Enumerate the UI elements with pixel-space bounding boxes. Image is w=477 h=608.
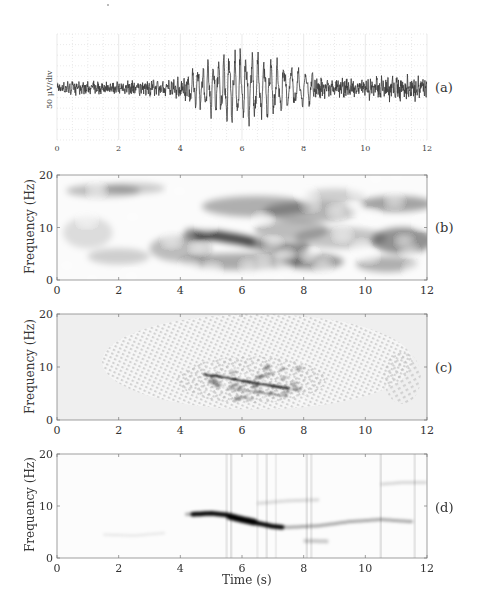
x-tick-label: 2 (115, 562, 122, 575)
x-tick-label: 2 (115, 284, 122, 297)
y-tick-label: 10 (39, 361, 53, 374)
x-tick-label: 0 (54, 284, 61, 297)
x-tick-label: 6 (239, 424, 246, 437)
panel-b-ylabel: Frequency (Hz) (23, 179, 37, 274)
x-tick-label: 6 (239, 284, 246, 297)
panel-a-ylabel: 50 μV/div (45, 70, 54, 109)
x-tick-label: 6 (239, 144, 244, 153)
y-tick-label: 20 (39, 308, 53, 321)
x-tick-label: 12 (420, 424, 434, 437)
figure: 50 μV/div 024681012 (a) 02468101201020 F… (0, 0, 477, 608)
x-tick-label: 12 (420, 284, 434, 297)
panel-c: 02468101201020 Frequency (Hz) (c) (23, 308, 452, 437)
panel-a-label: (a) (435, 80, 453, 95)
x-tick-label: 4 (177, 284, 184, 297)
panel-c-ylabel: Frequency (Hz) (23, 319, 37, 414)
x-tick-label: 12 (420, 562, 434, 575)
x-tick-label: 0 (54, 424, 61, 437)
x-tick-label: 12 (422, 144, 432, 153)
panel-b: 02468101201020 Frequency (Hz) (b) (23, 169, 453, 297)
stray-mark (107, 4, 109, 6)
x-tick-label: 10 (358, 562, 372, 575)
panel-d-ylabel: Frequency (Hz) (23, 457, 37, 552)
panel-d: 02468101201020 Frequency (Hz) Time (s) (… (23, 448, 453, 587)
x-tick-label: 10 (360, 144, 370, 153)
y-tick-label: 0 (46, 414, 53, 427)
x-tick-label: 8 (300, 562, 307, 575)
x-tick-label: 10 (358, 284, 372, 297)
panel-b-label: (b) (435, 220, 453, 235)
y-tick-label: 0 (46, 274, 53, 287)
x-tick-label: 0 (54, 562, 61, 575)
x-tick-label: 8 (300, 284, 307, 297)
panel-a-xticks: 024681012 (54, 144, 432, 153)
y-tick-label: 10 (39, 222, 53, 235)
x-tick-label: 8 (301, 144, 306, 153)
y-tick-label: 10 (39, 500, 53, 513)
x-tick-label: 4 (177, 424, 184, 437)
panel-d-label: (d) (435, 500, 453, 515)
x-tick-label: 8 (300, 424, 307, 437)
x-tick-label: 2 (116, 144, 121, 153)
x-tick-label: 2 (115, 424, 122, 437)
panel-d-xlabel: Time (s) (222, 573, 272, 587)
panel-c-label: (c) (435, 360, 452, 375)
x-tick-label: 4 (177, 562, 184, 575)
y-tick-label: 20 (39, 169, 53, 182)
x-tick-label: 10 (358, 424, 372, 437)
panel-a: 50 μV/div 024681012 (a) (45, 34, 453, 153)
y-tick-label: 0 (46, 552, 53, 565)
y-tick-label: 20 (39, 448, 53, 461)
x-tick-label: 4 (178, 144, 183, 153)
x-tick-label: 0 (54, 144, 59, 153)
